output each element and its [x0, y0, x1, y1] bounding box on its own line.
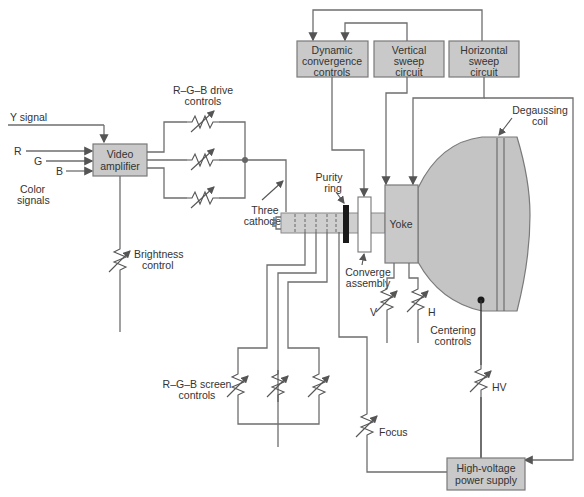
degaussing-coil-label-2: coil: [532, 115, 548, 127]
yoke-label: Yoke: [390, 218, 413, 230]
v-label: V: [370, 306, 377, 318]
color-signals-label-2: signals: [17, 194, 50, 206]
video-amplifier-label-1: Video: [107, 148, 134, 160]
screen-controls-label-2: controls: [179, 389, 216, 401]
crt-tube: Degaussing coil: [418, 104, 568, 311]
yoke: Yoke: [385, 185, 418, 263]
crt-diagram: Y signal R G B Color signals Video ampli…: [0, 0, 584, 497]
video-amplifier-label-2: amplifier: [100, 160, 140, 172]
vertical-sweep-label-3: circuit: [395, 66, 423, 78]
vertical-sweep-box: Vertical sweep circuit: [374, 41, 444, 78]
video-amplifier-box: Video amplifier: [93, 144, 147, 176]
converge-assembly: Converge assembly: [345, 197, 391, 289]
drive-resistor-g: [187, 149, 219, 170]
drive-controls-label-2: controls: [185, 95, 222, 107]
converge-assembly-label-2: assembly: [346, 277, 391, 289]
centering-label-2: controls: [435, 335, 472, 347]
b-label: B: [56, 165, 63, 177]
brightness-label-2: control: [142, 259, 174, 271]
brightness-control: Brightness control: [109, 176, 184, 332]
junction-dot: [242, 157, 248, 163]
focus-label: Focus: [379, 426, 408, 438]
h-label: H: [428, 306, 436, 318]
high-voltage-power-supply-box: High-voltage power supply: [447, 458, 525, 490]
hv-label: HV: [492, 381, 507, 393]
horizontal-sweep-label-3: circuit: [470, 66, 498, 78]
dynamic-convergence-box: Dynamic convergence controls: [297, 41, 368, 78]
drive-controls: R–G–B drive controls Three cathodes: [147, 84, 286, 227]
purity-ring-label-2: ring: [324, 182, 342, 194]
screen-controls: R–G–B screen controls: [163, 232, 329, 447]
hv-supply-label-1: High-voltage: [457, 462, 516, 474]
drive-resistor-r: [187, 111, 219, 132]
horizontal-sweep-box: Horizontal sweep circuit: [449, 41, 519, 78]
y-signal-input: Y signal: [8, 111, 104, 142]
hv-supply-label-2: power supply: [455, 474, 518, 486]
drive-resistor-b: [187, 187, 219, 208]
g-label: G: [34, 155, 42, 167]
y-signal-label: Y signal: [10, 111, 47, 123]
rgb-inputs: R G B Color signals: [14, 145, 92, 206]
dynamic-convergence-label-3: controls: [314, 66, 351, 78]
r-label: R: [14, 145, 22, 157]
